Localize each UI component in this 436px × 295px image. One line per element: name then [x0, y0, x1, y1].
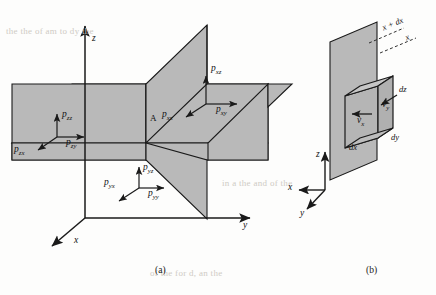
- bleed-text-row: in a the and of the: [222, 178, 292, 188]
- axis-x-line: [52, 218, 85, 246]
- panel-b-label-dy: dy: [391, 133, 399, 142]
- panel-b-axis-label-x: x: [288, 183, 292, 193]
- panel-a-geometry: [12, 25, 292, 246]
- horizontal-extension-right: [268, 84, 292, 107]
- figure-container: the the of am to dy the in a the and of …: [0, 0, 436, 295]
- panel-b-axis-y: [307, 190, 325, 209]
- panel-a-axis-label-y: y: [243, 221, 247, 231]
- panel-a-point-label-A: A: [150, 114, 157, 123]
- panel-b-axis-label-z: z: [316, 150, 320, 160]
- stress-label-pzz: pzz: [62, 110, 72, 122]
- bleed-text-row: the the of am to dy the: [6, 26, 94, 36]
- velocity-label-vy: vy: [382, 100, 389, 112]
- stress-label-pzy: pzy: [66, 138, 76, 150]
- stress-label-pyy: pyy: [148, 189, 159, 201]
- panel-a-axis-label-x: x: [74, 236, 78, 246]
- caption-panel-b: (b): [366, 265, 377, 275]
- stress-label-pxz: pxz: [211, 64, 221, 76]
- stress-label-pzx: pzx: [14, 145, 24, 157]
- panel-b-label-dz: dz: [399, 85, 407, 94]
- lower-left-face: [12, 143, 146, 160]
- caption-panel-a: (a): [155, 265, 166, 275]
- stress-label-pxy: pxy: [216, 105, 227, 117]
- panel-b-label-dx: dx: [349, 143, 357, 152]
- panel-a-axis-label-z: z: [92, 34, 96, 44]
- velocity-label-vx: vx: [357, 116, 364, 128]
- panel-b-axis-label-y: y: [300, 209, 304, 219]
- stress-label-pyx: pyx: [104, 178, 115, 190]
- upper-left-face: [12, 84, 146, 143]
- stress-label-pxx: pxx: [162, 110, 173, 122]
- stress-label-pyz: pyz: [143, 163, 153, 175]
